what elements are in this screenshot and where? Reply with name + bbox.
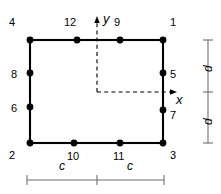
local-axes-group	[94, 16, 177, 95]
node-label-7: 7	[170, 110, 176, 121]
node-label-8: 8	[11, 69, 17, 80]
node-label-5: 5	[170, 69, 176, 80]
node-dot-9[interactable]	[117, 37, 124, 44]
node-dot-11[interactable]	[117, 140, 124, 147]
y-axis-arrowhead-icon	[94, 16, 99, 23]
node-label-9: 9	[114, 17, 120, 28]
horizontal-dimension-line	[27, 175, 164, 185]
y-axis-label: y	[103, 12, 110, 25]
dimension-label-d-top: d	[202, 65, 214, 72]
node-dot-3[interactable]	[160, 140, 167, 147]
node-label-3: 3	[170, 150, 176, 161]
node-label-4: 4	[9, 17, 15, 28]
node-dot-7[interactable]	[160, 107, 167, 114]
dimension-label-c-left: c	[59, 160, 65, 172]
dimension-label-d-bottom: d	[202, 118, 214, 125]
node-label-12: 12	[64, 17, 76, 28]
node-dot-2[interactable]	[27, 140, 34, 147]
diagram-canvas	[0, 0, 221, 194]
node-label-2: 2	[9, 150, 15, 161]
x-axis-label: x	[176, 93, 183, 106]
node-dot-12[interactable]	[74, 37, 81, 44]
node-diagram-figure: 1 2 3 4 5 6 7 8 9 10 11 12 y x c c d d	[0, 0, 221, 194]
node-label-11: 11	[113, 151, 124, 162]
vertical-dimension-line	[203, 40, 213, 143]
node-label-6: 6	[11, 103, 17, 114]
node-dot-4[interactable]	[27, 37, 34, 44]
node-dot-1[interactable]	[160, 37, 167, 44]
node-dot-8[interactable]	[27, 70, 34, 77]
node-dot-10[interactable]	[71, 140, 78, 147]
dimension-label-c-right: c	[127, 160, 133, 172]
node-label-10: 10	[67, 151, 79, 162]
node-dot-5[interactable]	[160, 70, 167, 77]
node-dot-6[interactable]	[27, 104, 34, 111]
node-label-1: 1	[170, 17, 176, 28]
